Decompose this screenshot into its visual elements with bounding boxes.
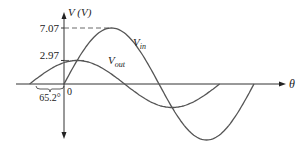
level-markers: [61, 28, 112, 60]
vin-label-sub: in: [140, 42, 146, 51]
phase-diagram: V (V) θ 0 7.07 2.97 65.2° Vin Vout: [0, 0, 302, 150]
y-axis-arrow-up-icon: [62, 12, 67, 19]
x-axis-arrow-icon: [279, 82, 286, 87]
vout-label-sub: out: [115, 60, 126, 69]
vin-label: Vin: [133, 36, 146, 51]
level-label-7-07: 7.07: [40, 22, 60, 34]
level-label-2-97: 2.97: [40, 49, 60, 61]
x-axis-label: θ: [289, 77, 295, 91]
origin-label: 0: [67, 86, 72, 97]
phase-angle-label: 65.2°: [39, 92, 61, 103]
vout-label: Vout: [108, 54, 126, 69]
y-axis-label: V (V): [68, 6, 92, 19]
y-axis-arrow-down-icon: [62, 132, 67, 139]
